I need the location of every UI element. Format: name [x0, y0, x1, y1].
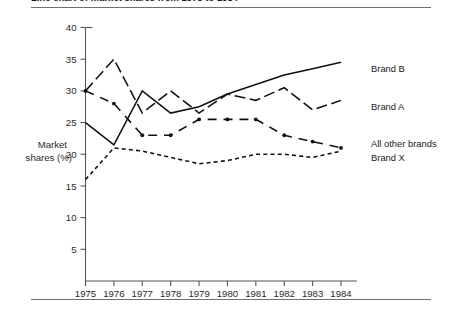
series-marker: [339, 146, 343, 150]
y-tick-label: 25: [66, 117, 77, 128]
x-tick-label: 1980: [217, 288, 238, 299]
x-tick-label: 1979: [188, 288, 209, 299]
series-marker: [197, 117, 201, 121]
series-label-brand-a: Brand A: [371, 101, 405, 112]
y-tick-label: 40: [66, 22, 77, 33]
x-tick-label: 1981: [245, 288, 266, 299]
y-tick-label: 5: [71, 244, 76, 255]
series-line-brand-a: [86, 59, 342, 113]
series-marker: [140, 133, 144, 137]
series-marker: [311, 140, 315, 144]
x-axis: 1975197619771978197919801981198219831984: [75, 281, 353, 299]
series-marker: [169, 133, 173, 137]
series-marker: [112, 102, 116, 106]
series-line-brand-x: [86, 148, 342, 180]
series-marker: [84, 89, 88, 93]
x-tick-label: 1978: [160, 288, 181, 299]
y-tick-label: 30: [66, 85, 77, 96]
y-axis-title-line1: Market: [38, 139, 68, 150]
data-series-group: [84, 59, 343, 179]
y-tick-label: 35: [66, 54, 77, 65]
figure-container: Line chart of market shares from 1975 to…: [0, 0, 457, 311]
series-label-brand-x: Brand X: [371, 152, 406, 163]
line-chart-plot: 510152025303540 197519761977197819791980…: [0, 0, 457, 311]
x-tick-label: 1977: [132, 288, 153, 299]
series-marker: [282, 133, 286, 137]
y-tick-label: 10: [66, 212, 77, 223]
x-tick-label: 1975: [75, 288, 96, 299]
series-marker: [226, 117, 230, 121]
x-tick-label: 1983: [302, 288, 323, 299]
x-tick-label: 1984: [330, 288, 352, 299]
series-label-brand-b: Brand B: [371, 63, 405, 74]
series-line-all-other-brands: [86, 91, 342, 148]
y-axis-title-line2: shares (%): [26, 152, 72, 163]
chart-axes: [86, 28, 358, 282]
y-axis: 510152025303540: [66, 22, 93, 255]
series-marker: [254, 117, 258, 121]
x-tick-label: 1982: [274, 288, 295, 299]
x-tick-label: 1976: [103, 288, 124, 299]
series-labels-group: Brand BBrand AAll other brandsBrand X: [371, 63, 437, 163]
y-tick-label: 15: [66, 181, 77, 192]
series-label-all-other-brands: All other brands: [371, 138, 437, 149]
